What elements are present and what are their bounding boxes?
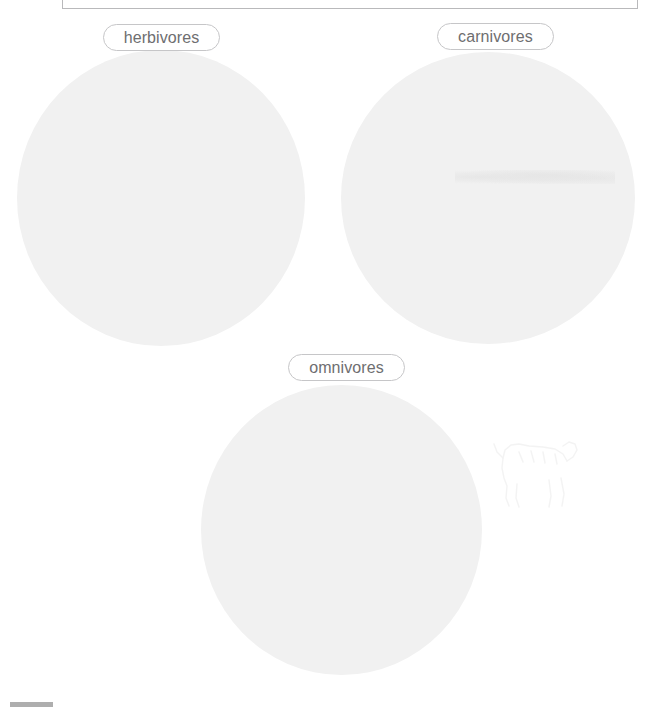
sorting-zone-carnivores[interactable] <box>341 52 635 344</box>
faded-animal-illustration <box>489 428 581 514</box>
sorting-zone-herbivores[interactable] <box>17 50 305 346</box>
instruction-box <box>62 0 638 9</box>
page-footer-mark <box>10 702 53 707</box>
zone-label-omnivores: omnivores <box>288 354 405 381</box>
faded-animal-icon <box>489 428 581 514</box>
zone-label-herbivores: herbivores <box>103 24 220 51</box>
zone-label-carnivores: carnivores <box>437 23 554 50</box>
sorting-zone-omnivores[interactable] <box>201 385 482 675</box>
